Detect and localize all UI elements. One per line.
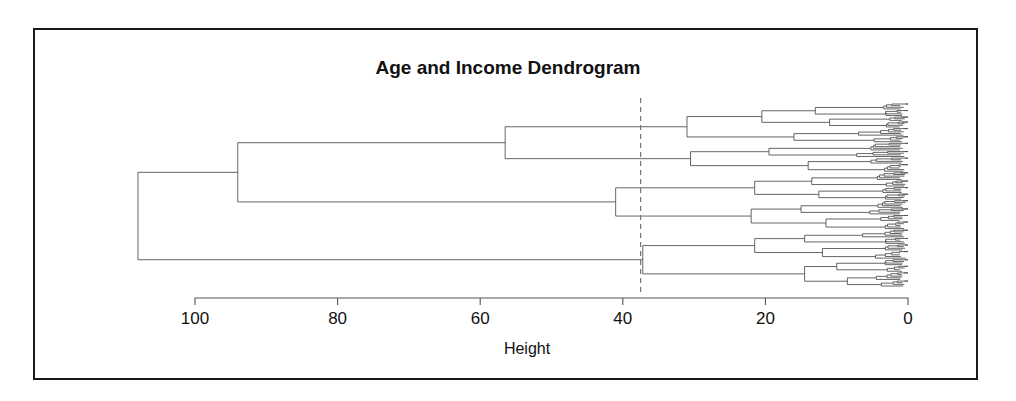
dendrogram-link xyxy=(762,111,830,123)
x-axis-line xyxy=(195,298,908,305)
dendrogram-link xyxy=(238,143,616,202)
dendrogram-link xyxy=(751,209,826,223)
dendrogram-link xyxy=(898,222,904,224)
dendrogram-link xyxy=(899,252,904,254)
dendrogram-link xyxy=(801,206,878,213)
x-axis-tick-label: 80 xyxy=(328,309,347,328)
dendrogram-link xyxy=(888,152,905,154)
x-axis-tick-label: 20 xyxy=(756,309,775,328)
dendrogram-link xyxy=(897,111,904,113)
dendrogram-link xyxy=(755,239,823,253)
x-axis: 100806040200 xyxy=(181,298,913,328)
dendrogram-link xyxy=(886,239,904,241)
dendrogram-link xyxy=(898,273,904,275)
dendrogram-link xyxy=(812,178,887,185)
dendrogram-link xyxy=(897,281,904,283)
dendrogram-link xyxy=(889,143,905,145)
dendrogram-link xyxy=(138,172,643,259)
dendrogram-link xyxy=(837,263,888,270)
dendrogram-plot: Age and Income Dendrogram 100806040200 H… xyxy=(0,0,1016,401)
dendrogram-link xyxy=(815,107,886,114)
x-axis-tick-label: 60 xyxy=(471,309,490,328)
dendrogram-link xyxy=(805,267,848,282)
dendrogram-link xyxy=(794,134,874,141)
dendrogram-link xyxy=(894,216,904,218)
x-axis-tick-label: 40 xyxy=(613,309,632,328)
dendrogram-link xyxy=(687,117,794,137)
x-axis-tick-label: 100 xyxy=(181,309,209,328)
dendrogram-link xyxy=(894,188,905,190)
dendrogram-link xyxy=(755,181,819,194)
dendrogram-link xyxy=(892,158,905,160)
dendrogram-link xyxy=(892,104,906,106)
dendrogram-link xyxy=(769,148,871,155)
dendrogram-link xyxy=(616,188,755,216)
dendrogram-link xyxy=(896,137,903,139)
dendrogram-link xyxy=(894,129,905,131)
dendrogram-link xyxy=(898,245,905,247)
x-axis-tick-label: 0 xyxy=(903,309,912,328)
dendrogram-link xyxy=(819,191,886,198)
dendrogram-link xyxy=(691,152,809,166)
dendrogram-link xyxy=(830,119,890,125)
dendrogram-link xyxy=(895,238,905,240)
dendrogram-link xyxy=(892,252,900,254)
dendrogram-link xyxy=(899,266,905,268)
chart-page: Age and Income Dendrogram 100806040200 H… xyxy=(0,0,1016,401)
x-axis-label: Height xyxy=(504,340,551,357)
dendrogram-link xyxy=(899,165,902,167)
dendrogram-links xyxy=(138,104,908,286)
dendrogram-link xyxy=(805,235,886,242)
dendrogram-link xyxy=(505,127,690,159)
dendrogram-link xyxy=(826,219,885,227)
dendrogram-link xyxy=(890,165,899,167)
dendrogram-link xyxy=(643,246,805,274)
chart-title: Age and Income Dendrogram xyxy=(376,57,641,78)
dendrogram-link xyxy=(893,260,905,262)
